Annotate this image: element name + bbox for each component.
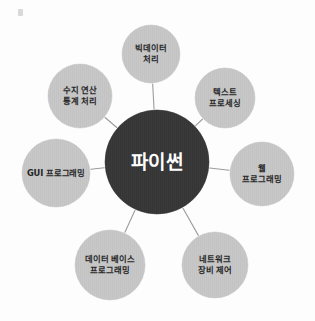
node-text-processing-label-line-1: 텍스트 — [213, 87, 237, 97]
node-numeric-statistics-label-line-2: 통계 처리 — [63, 96, 97, 106]
node-gui-programming[interactable]: GUI 프로그래밍 — [22, 139, 90, 207]
node-gui-programming-label-line-1: GUI 프로그래밍 — [27, 168, 85, 178]
center-node[interactable]: 파이썬 — [105, 110, 209, 214]
edge-to-database-programming — [125, 210, 135, 232]
node-numeric-statistics[interactable]: 수지 연산통계 처리 — [48, 64, 112, 128]
edge-to-text-processing — [196, 119, 203, 125]
node-text-processing[interactable]: 텍스트프로세싱 — [195, 68, 255, 128]
edge-to-gui-programming — [91, 168, 105, 169]
node-database-programming-label-line-2: 프로그래밍 — [90, 265, 129, 275]
node-bigdata[interactable]: 빅데이터처리 — [122, 25, 180, 83]
node-network-control-label-line-2: 장비 제어 — [198, 265, 232, 275]
edge-to-numeric-statistics — [105, 117, 117, 127]
node-numeric-statistics-label-line-1: 수지 연산 — [63, 85, 97, 95]
node-database-programming-label-line-1: 데이터 베이스 — [85, 254, 135, 264]
node-text-processing-label-line-2: 프로세싱 — [209, 98, 240, 108]
radial-diagram-canvas: 빅데이터처리텍스트프로세싱웹프로그래밍네트워크장비 제어데이터 베이스프로그래밍… — [0, 0, 315, 321]
node-web-programming[interactable]: 웹프로그래밍 — [230, 142, 294, 206]
scan-artifact-speck — [18, 9, 23, 16]
node-web-programming-label-line-1: 웹 — [258, 163, 266, 173]
edge-to-network-control — [183, 208, 198, 235]
node-bigdata-label-line-2: 처리 — [143, 54, 159, 64]
edge-to-bigdata — [153, 84, 154, 109]
radial-diagram-svg: 빅데이터처리텍스트프로세싱웹프로그래밍네트워크장비 제어데이터 베이스프로그래밍… — [0, 0, 315, 321]
node-web-programming-label-line-2: 프로그래밍 — [242, 174, 281, 184]
python-center-label: 파이썬 — [131, 151, 183, 173]
node-network-control[interactable]: 네트워크장비 제어 — [182, 232, 248, 298]
edge-to-web-programming — [210, 168, 230, 170]
node-bigdata-label-line-1: 빅데이터 — [135, 43, 166, 53]
node-database-programming[interactable]: 데이터 베이스프로그래밍 — [75, 230, 145, 300]
node-network-control-label-line-1: 네트워크 — [199, 254, 231, 264]
